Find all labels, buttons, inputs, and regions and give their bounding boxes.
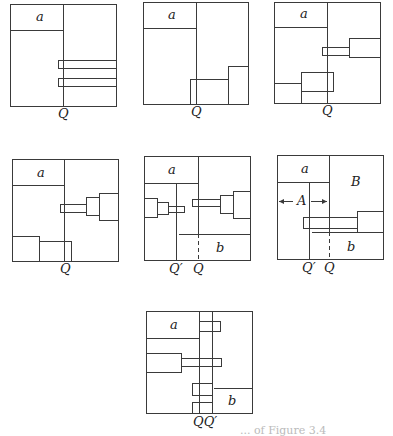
panel-6: aBAbQ′Q — [278, 155, 384, 275]
label-q: Q — [60, 261, 71, 276]
staircase-block — [193, 200, 221, 207]
staircase-block — [358, 212, 384, 233]
arrowhead-icon — [322, 199, 327, 204]
staircase-block — [13, 237, 40, 262]
panel-3: aQ — [275, 2, 381, 118]
panel-5: abQ′Q — [145, 156, 251, 276]
label-a: A — [296, 193, 306, 208]
staircase-block — [304, 218, 358, 229]
label-b: b — [228, 393, 236, 408]
label-q: Q — [58, 106, 69, 121]
panel-2: aQ — [144, 2, 249, 119]
staircase-block — [59, 79, 117, 87]
label-b: B — [350, 174, 361, 189]
label-q: Q — [193, 261, 204, 276]
staircase-block — [302, 73, 334, 92]
label-a: a — [36, 9, 44, 24]
staircase-block — [200, 322, 221, 332]
label-a: a — [168, 162, 176, 177]
figure-caption-fragment: ... of Figure 3.4 — [240, 424, 326, 436]
staircase-block — [275, 84, 302, 104]
label-q: Q — [191, 104, 202, 119]
staircase-block — [158, 203, 169, 215]
panel-frame — [13, 160, 119, 262]
staircase-panels-figure: aQaQaQaQabQ′QaBAbQ′QabQQ′ ... of Figure … — [0, 0, 393, 436]
label-a: a — [37, 165, 45, 180]
staircase-block — [350, 39, 381, 58]
staircase-block — [229, 67, 249, 105]
label-b: b — [347, 239, 355, 254]
staircase-block — [234, 192, 251, 219]
panel-4: aQ — [13, 159, 119, 276]
label-a: a — [300, 6, 308, 21]
staircase-block — [221, 196, 234, 214]
panel-frame — [145, 157, 251, 261]
staircase-block — [323, 48, 350, 56]
panel-frame — [278, 156, 384, 260]
figure-diagram: aQaQaQaQabQ′QaBAbQ′QabQQ′ ... of Figure … — [0, 0, 393, 436]
staircase-block — [40, 242, 72, 262]
label-qq-prime: QQ′ — [193, 414, 217, 429]
label-a: a — [301, 161, 309, 176]
label-a: a — [170, 317, 178, 332]
staircase-block — [193, 403, 213, 414]
label-q-prime: Q′ — [302, 260, 316, 275]
label-a: a — [168, 7, 176, 22]
label-b: b — [216, 240, 224, 255]
label-q: Q — [322, 103, 333, 118]
staircase-block — [147, 354, 182, 373]
staircase-block — [87, 198, 100, 216]
staircase-block — [59, 61, 117, 69]
panel-1: aQ — [11, 4, 117, 121]
arrowhead-icon — [279, 199, 284, 204]
label-q: Q — [324, 260, 335, 275]
divider-line — [177, 234, 251, 235]
staircase-block — [193, 384, 213, 396]
staircase-block — [145, 199, 158, 218]
divider-line — [213, 388, 253, 389]
staircase-block — [100, 194, 119, 221]
staircase-block — [182, 359, 222, 367]
panel-7: abQQ′ — [147, 311, 253, 429]
label-q-prime: Q′ — [169, 261, 183, 276]
